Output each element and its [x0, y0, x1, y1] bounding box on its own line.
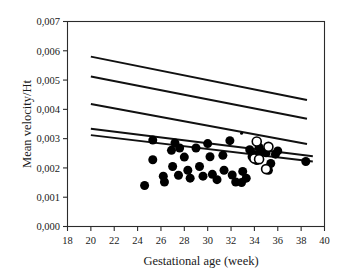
x-tick-label: 20	[86, 235, 97, 246]
data-point-filled	[220, 166, 229, 175]
data-point-filled	[225, 136, 234, 145]
data-point-filled	[242, 174, 251, 183]
data-point-open	[255, 155, 264, 164]
y-tick-label: 0,006	[36, 46, 60, 57]
data-point-small	[240, 132, 243, 135]
x-tick-label: 36	[273, 235, 284, 246]
x-tick-label: 30	[202, 235, 213, 246]
x-tick-label: 28	[179, 235, 190, 246]
y-tick-label: 0,003	[36, 133, 60, 144]
x-tick-label: 40	[319, 235, 330, 246]
data-point-filled	[168, 162, 177, 171]
data-point-filled	[213, 175, 222, 184]
data-point-filled	[199, 172, 208, 181]
data-point-open	[264, 142, 273, 151]
x-tick-label: 34	[249, 235, 260, 246]
x-tick-label: 22	[109, 235, 120, 246]
data-point-filled	[273, 146, 282, 155]
data-point-filled	[195, 162, 204, 171]
data-point-filled	[180, 153, 189, 162]
data-point-filled	[183, 166, 192, 175]
y-axis-title: Mean velocity/Ht	[20, 80, 34, 168]
y-tick-label: 0,005	[36, 75, 60, 86]
data-point-filled	[203, 139, 212, 148]
data-point-filled	[301, 157, 310, 166]
data-point-filled	[148, 155, 157, 164]
data-point-filled	[148, 136, 157, 145]
data-point-filled	[186, 174, 195, 183]
scatter-chart: 182022242628303234363840 0,0000,0010,002…	[0, 0, 360, 272]
data-point-filled	[206, 152, 215, 161]
y-tick-label: 0,007	[36, 16, 60, 27]
data-point-filled	[160, 177, 169, 186]
x-tick-label: 32	[226, 235, 237, 246]
x-tick-label: 24	[132, 235, 143, 246]
y-tick-label: 0,004	[36, 104, 60, 115]
data-point-filled	[175, 144, 184, 153]
data-point-filled	[192, 144, 201, 153]
data-point-open	[262, 165, 271, 174]
x-tick-label: 38	[296, 235, 307, 246]
x-tick-label: 18	[62, 235, 73, 246]
data-point-filled	[140, 181, 149, 190]
figure-container: 182022242628303234363840 0,0000,0010,002…	[0, 0, 360, 272]
data-point-filled	[174, 171, 183, 180]
x-axis-title: Gestational age (week)	[143, 254, 258, 268]
data-point-filled	[218, 151, 227, 160]
x-tick-label: 26	[156, 235, 167, 246]
y-tick-label: 0,001	[36, 192, 60, 203]
data-point-open	[252, 137, 261, 146]
y-tick-label: 0,000	[36, 221, 60, 232]
y-tick-label: 0,002	[36, 163, 60, 174]
